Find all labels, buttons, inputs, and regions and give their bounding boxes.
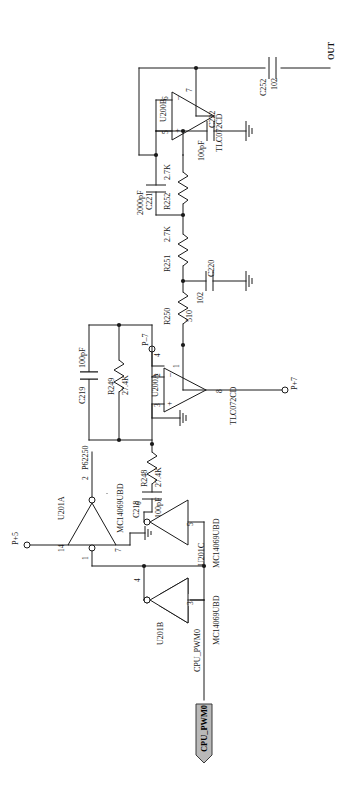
u200b-pin7-number: 7 <box>185 88 194 92</box>
c252-value: 102 <box>270 78 279 90</box>
ground-u201a <box>145 526 151 540</box>
u201b-refdes: U201B <box>156 621 165 645</box>
u201a-pin7-number: 7 <box>114 548 123 552</box>
cpu-pwm0-net-label: CPU_PWM0 <box>193 629 202 672</box>
r252-value: 2.7K <box>163 164 172 180</box>
schematic-sheet: C252 102 OUT 7 6 – 5 + U200B TLC072CD <box>0 0 342 804</box>
out-net-label: OUT <box>327 41 336 60</box>
junction-u201b-out <box>142 564 146 568</box>
r250-group: R250 510 <box>163 281 194 345</box>
u200a-part-number: TLC072CD <box>229 386 238 425</box>
r251-value: 2.7K <box>163 226 172 242</box>
c221-refdes: C221 <box>145 193 154 210</box>
ground-c220 <box>246 271 252 291</box>
out-net-group: C252 102 OUT <box>196 41 336 96</box>
u200b-refdes: U200B <box>159 98 168 122</box>
c220-value: 102 <box>196 292 205 304</box>
mid-node-group <box>156 213 185 217</box>
schematic-canvas: C252 102 OUT 7 6 – 5 + U200B TLC072CD <box>0 0 342 804</box>
cpu-pwm0-flag-group[interactable]: CPU_PWM0 <box>196 704 212 763</box>
u201b-pin3-number: 3 <box>186 601 195 605</box>
u200a-pin4-number: 4 <box>153 353 162 357</box>
u200a-group: 1 2 – 3 + 4 8 U200A TLC072CD <box>151 343 282 426</box>
c219-value: 100pF <box>78 347 87 368</box>
cpu-pwm0-flag-label: CPU_PWM0 <box>200 705 209 752</box>
u200a-pin8-number: 8 <box>215 389 224 393</box>
u200a-pin3-number: 3 <box>153 403 162 407</box>
r250-value: 510 <box>185 310 194 322</box>
c252-refdes: C252 <box>259 79 268 96</box>
testpoint-p5-circle <box>24 542 30 548</box>
u201c-bubble <box>144 519 150 525</box>
r249-refdes: R249 <box>107 378 116 395</box>
u200a-pin1-number: 1 <box>172 364 181 368</box>
u201a-pin1-number: 1 <box>81 556 90 560</box>
u201b-pin4-number: 4 <box>133 578 142 582</box>
r251-group: R251 2.7K <box>163 215 188 281</box>
ground-u200a <box>180 410 186 426</box>
c222-refdes: C222 <box>208 111 217 128</box>
r249-value: 27.4K <box>121 375 130 395</box>
r250-refdes: R250 <box>163 308 172 325</box>
u201c-pin6-number: 6 <box>134 501 143 505</box>
junction-u200a-out <box>181 343 185 347</box>
u201a-pin14-number: 14 <box>57 544 66 552</box>
testpoint-p7-neg-label: P–7 <box>141 334 150 346</box>
r252-refdes: R252 <box>163 193 172 210</box>
u201c-part-number: MC14069UBD <box>212 518 221 568</box>
r251-body <box>178 234 188 266</box>
c222-value: 100pF <box>197 140 206 161</box>
u201b-body2 <box>150 578 188 623</box>
c221-group: 2000pF C221 <box>136 155 166 215</box>
testpoint-p7-pos-label: P+7 <box>290 377 299 390</box>
u201a-in-bubble <box>89 545 95 551</box>
u201a-out-bubble <box>89 497 95 503</box>
u201b-out-bubble2 <box>144 597 150 603</box>
u201c-group: 6 5 U201C MC14069UBD <box>134 500 221 568</box>
testpoint-p7-pos-group: P+7 <box>282 377 299 393</box>
testpoint-p5-label: P+5 <box>11 532 20 545</box>
c220-group: 102 C220 <box>181 260 252 304</box>
u201a-pin2-number: 2 <box>81 476 90 480</box>
testpoint-p5-group: P+5 <box>11 532 30 548</box>
testpoint-p7-pos-circle <box>282 387 288 393</box>
c221-value: 2000pF <box>136 190 145 215</box>
u201c-refdes: U201C <box>197 542 206 566</box>
r251-refdes: R251 <box>163 255 172 272</box>
r248-refdes: R248 <box>140 470 149 487</box>
r248-value: 27.4K <box>154 467 163 487</box>
u200a-noninv-mark: + <box>165 401 174 406</box>
u201a-refdes: U201A <box>57 496 66 520</box>
u201a-net-p62250: P62250 <box>81 446 90 470</box>
ground-c222 <box>246 121 252 141</box>
c220-refdes: C220 <box>207 260 216 277</box>
c219-refdes: C219 <box>78 387 87 404</box>
c219-gap <box>80 372 98 379</box>
u201c-pin5-number: 5 <box>186 522 195 526</box>
r248-c218-group: R248 27.4K C218 100pF <box>132 444 163 518</box>
u201a-part-number: MC14069UBD <box>116 483 125 533</box>
r252-body <box>178 172 188 204</box>
u201b-part-number: MC14069UBD <box>212 595 221 645</box>
u201b-group: 4 3 U201B MC14069UBD CPU_PWM0 <box>133 564 221 700</box>
